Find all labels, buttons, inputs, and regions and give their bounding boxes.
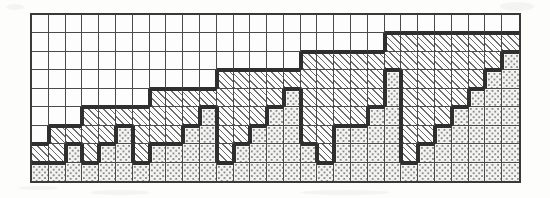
grid-cell-dotted: [485, 89, 502, 107]
grid-cell-hatched: [418, 70, 435, 88]
grid-cell-blank: [200, 33, 217, 51]
grid-cell-blank: [82, 52, 99, 70]
grid-cell-blank: [166, 52, 183, 70]
grid-cell-dotted: [116, 144, 133, 162]
grid-cell-hatched: [385, 52, 402, 70]
grid-cell-blank: [502, 15, 519, 33]
grid-cell-blank: [66, 52, 83, 70]
grid-cell-dotted: [452, 107, 469, 125]
grid-cell-hatched: [452, 52, 469, 70]
grid-cell-dotted: [485, 163, 502, 181]
grid-cell-dotted: [502, 163, 519, 181]
grid-cell-blank: [150, 52, 167, 70]
grid-cell-blank: [49, 15, 66, 33]
grid-cell-blank: [49, 107, 66, 125]
grid-cell-hatched: [49, 144, 66, 162]
grid-cell-blank: [351, 15, 368, 33]
grid-cell-dotted: [267, 126, 284, 144]
grid-cell-blank: [301, 33, 318, 51]
grid-cell-blank: [150, 15, 167, 33]
grid-cell-dotted: [82, 163, 99, 181]
grid-cell-dotted: [267, 163, 284, 181]
grid-cell-dotted: [368, 144, 385, 162]
grid-cell-blank: [284, 33, 301, 51]
grid-cell-dotted: [116, 126, 133, 144]
grid-cell-blank: [82, 70, 99, 88]
grid-cell-blank: [99, 70, 116, 88]
grid-cell-blank: [183, 70, 200, 88]
grid-cell-dotted: [401, 163, 418, 181]
grid-cell-hatched: [317, 144, 334, 162]
grid-cell-dotted: [166, 163, 183, 181]
grid-cell-dotted: [284, 163, 301, 181]
grid-cell-dotted: [485, 144, 502, 162]
grid-cell-dotted: [217, 163, 234, 181]
grid-cell-hatched: [401, 144, 418, 162]
grid-cell-blank: [66, 33, 83, 51]
grid-cell-blank: [368, 33, 385, 51]
grid-cell-blank: [133, 33, 150, 51]
grid-cell-blank: [234, 52, 251, 70]
grid-cell-blank: [250, 52, 267, 70]
grid-cell-dotted: [200, 107, 217, 125]
grid-cell-hatched: [301, 70, 318, 88]
grid-cell-hatched: [351, 107, 368, 125]
grid-cell-hatched: [150, 107, 167, 125]
grid-cell-hatched: [418, 33, 435, 51]
grid-cell-blank: [116, 33, 133, 51]
chart-page: [0, 0, 550, 198]
paper-blemish: [300, 190, 390, 195]
grid-cell-blank: [66, 15, 83, 33]
grid-cell-hatched: [435, 33, 452, 51]
grid-cell-blank: [334, 15, 351, 33]
grid-cell-blank: [385, 15, 402, 33]
grid-cell-dotted: [200, 144, 217, 162]
grid-cell-hatched: [368, 89, 385, 107]
grid-cell-dotted: [150, 144, 167, 162]
grid-cell-blank: [49, 70, 66, 88]
grid-cell-hatched: [401, 33, 418, 51]
grid-cell-dotted: [385, 70, 402, 88]
grid-cell-hatched: [401, 107, 418, 125]
grid-cell-dotted: [150, 163, 167, 181]
grid-cell-hatched: [435, 52, 452, 70]
grid-cell-blank: [133, 15, 150, 33]
grid-cell-blank: [49, 33, 66, 51]
grid-cell-hatched: [334, 52, 351, 70]
grid-cell-dotted: [385, 126, 402, 144]
grid-cell-hatched: [435, 107, 452, 125]
grid-cell-dotted: [368, 163, 385, 181]
grid-cell-dotted: [183, 144, 200, 162]
grid-cell-dotted: [502, 70, 519, 88]
grid-cell-blank: [317, 15, 334, 33]
grid-cell-dotted: [99, 144, 116, 162]
grid-cell-hatched: [401, 70, 418, 88]
grid-cell-dotted: [351, 163, 368, 181]
grid-cell-hatched: [485, 33, 502, 51]
grid-cell-blank: [133, 52, 150, 70]
grid-cell-blank: [82, 15, 99, 33]
grid-cell-dotted: [166, 144, 183, 162]
grid-cell-dotted: [183, 163, 200, 181]
grid-cell-dotted: [469, 89, 486, 107]
paper-blemish: [18, 186, 58, 190]
grid-cell-blank: [133, 89, 150, 107]
grid-cell-hatched: [351, 89, 368, 107]
grid-cell-dotted: [284, 126, 301, 144]
grid-cell-blank: [150, 70, 167, 88]
grid-cell-dotted: [502, 126, 519, 144]
paper-blemish: [500, 2, 534, 11]
grid-cell-blank: [166, 70, 183, 88]
grid-cell-hatched: [418, 89, 435, 107]
grid-cell-hatched: [418, 126, 435, 144]
grid-cell-dotted: [435, 126, 452, 144]
grid-cell-blank: [82, 33, 99, 51]
grid-cell-blank: [234, 15, 251, 33]
grid-cell-dotted: [435, 144, 452, 162]
grid-cell-dotted: [234, 144, 251, 162]
grid-cell-blank: [183, 33, 200, 51]
grid-cell-dotted: [49, 163, 66, 181]
grid-cell-hatched: [301, 126, 318, 144]
grid-cell-blank: [200, 52, 217, 70]
grid-cell-hatched: [217, 144, 234, 162]
